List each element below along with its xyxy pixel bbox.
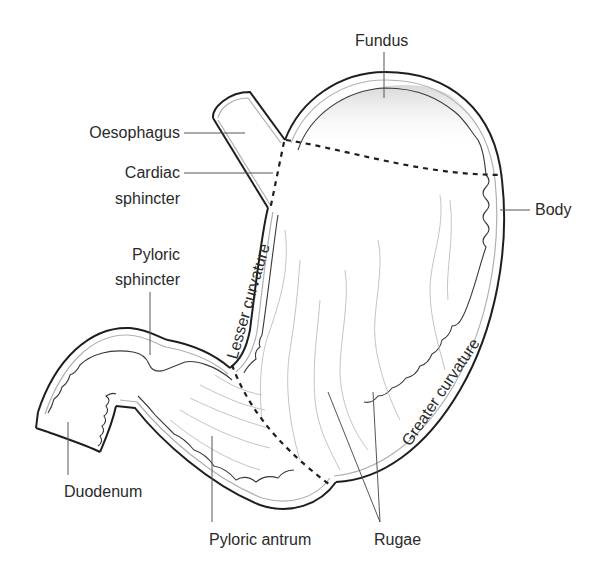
duodenum-label: Duodenum <box>64 482 142 501</box>
pyloric-antrum-label: Pyloric antrum <box>209 530 311 549</box>
pyloric-sphincter-label-line1: Pyloric <box>80 245 180 264</box>
oesophagus-label: Oesophagus <box>62 123 180 142</box>
body-label: Body <box>535 200 571 219</box>
rugae-label: Rugae <box>374 530 421 549</box>
cardiac-sphincter-label-line2: sphincter <box>80 189 180 208</box>
pyloric-sphincter-label-line2: sphincter <box>80 270 180 289</box>
stomach-diagram: Lesser curvature Greater curvature Fundu… <box>0 0 609 575</box>
fundus-label: Fundus <box>355 31 408 50</box>
cardiac-sphincter-label-line1: Cardiac <box>80 163 180 182</box>
